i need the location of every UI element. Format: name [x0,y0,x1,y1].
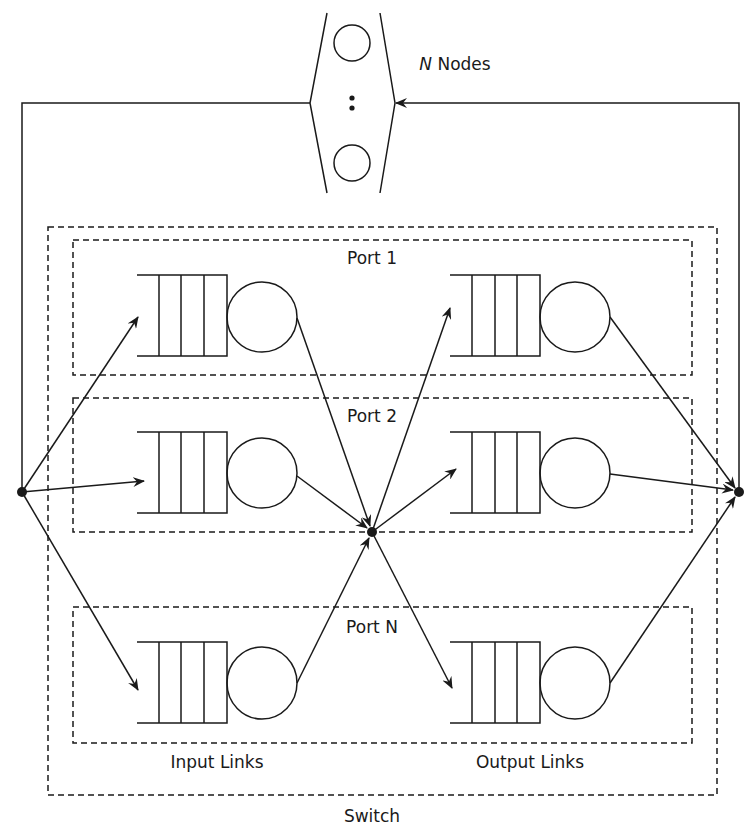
arrow-center-to-port2 [372,469,456,532]
port-n-label: Port N [346,617,398,637]
arrow-port2-to-center [297,476,367,528]
feedback-right-line [396,103,739,492]
node-circle-top [334,25,370,61]
node-circle-bottom [334,145,370,181]
arrow-center-to-portn [372,532,452,688]
input-links-label: Input Links [170,752,263,772]
junction-left-dot [17,487,27,497]
queue-portn-input [137,642,297,723]
n-nodes-text: Nodes [432,54,491,74]
switch-label: Switch [344,806,400,826]
n-nodes-label: N Nodes [419,54,490,74]
port-2-label: Port 2 [347,406,397,426]
junction-center-dot [367,527,377,537]
queue-port1-input [137,275,297,356]
arrow-in-port1 [22,317,138,492]
arrow-portn-to-center [297,538,369,683]
n-nodes-var: N [419,54,432,74]
junction-right-dot [734,487,744,497]
port-1-label: Port 1 [347,248,397,268]
arrow-in-port2 [22,481,144,492]
feedback-left-line [22,103,310,492]
output-links-label: Output Links [476,752,584,772]
queue-port1-output [450,275,610,356]
arrow-in-portn [22,492,138,690]
ellipsis-dot-bottom [349,105,354,110]
switch-box [48,227,717,795]
ellipsis-dot-top [349,95,354,100]
queue-port2-output [450,432,610,513]
queue-portn-output [450,642,610,723]
n-nodes-group [310,13,395,193]
arrow-out-port2 [610,474,733,490]
queue-port2-input [137,432,297,513]
